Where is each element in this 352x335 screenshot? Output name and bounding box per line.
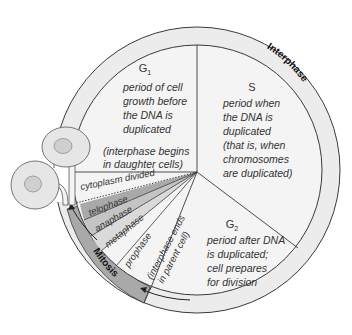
s-line-4: (that is, when [223, 139, 286, 151]
g2-line-3: cell prepares [207, 262, 268, 274]
daughter-cell-upper [42, 127, 90, 167]
g2-line-2: is duplicated; [207, 248, 268, 260]
g1-line-2: growth before [123, 95, 187, 107]
g2-line-4: for division [207, 276, 257, 288]
s-line-1: period when [222, 97, 280, 109]
g1-line-4: duplicated [123, 123, 172, 135]
s-letter: S [248, 81, 255, 93]
cell-cycle-diagram: Interphase Mitosis G1 period of cell gro… [0, 0, 352, 335]
s-line-3: duplicated [223, 125, 272, 137]
daughter-cell-lower [11, 161, 59, 209]
g1-note-1: (interphase begins [103, 145, 190, 157]
g1-line-1: period of cell [122, 81, 183, 93]
s-line-5: chromosomes [223, 153, 290, 165]
g2-line-1: period after DNA [206, 234, 285, 246]
s-line-2: the DNA is [223, 111, 274, 123]
g1-line-3: the DNA is [123, 109, 174, 121]
s-line-6: are duplicated) [223, 167, 292, 179]
